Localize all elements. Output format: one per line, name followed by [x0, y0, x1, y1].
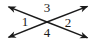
angle-label-4: 4: [44, 25, 51, 40]
angle-label-1: 1: [22, 14, 29, 29]
angle-diagram-figure: 1 2 3 4: [0, 0, 96, 44]
angle-label-2: 2: [65, 15, 72, 30]
angle-label-3: 3: [44, 0, 51, 15]
intersecting-lines-diagram: 1 2 3 4: [0, 0, 96, 44]
